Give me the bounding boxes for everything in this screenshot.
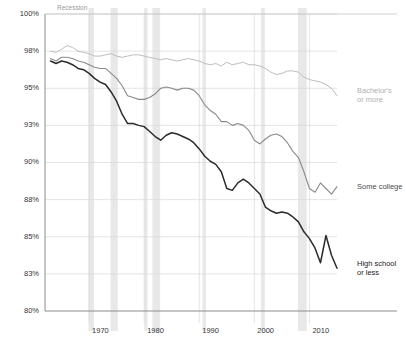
x-tick-label: 1970 <box>92 326 109 335</box>
series-label-line: or less <box>357 268 379 277</box>
x-tick-label: 1990 <box>202 326 219 335</box>
y-tick-label: 83% <box>24 269 39 278</box>
y-tick-label: 85% <box>24 232 39 241</box>
y-tick-label: 95% <box>24 83 39 92</box>
series-label-some-college: Some college <box>357 182 402 191</box>
series-label-bachelor-s-or-more: Bachelor'sor more <box>357 86 392 104</box>
recession-label: Recession <box>57 4 88 11</box>
recession-band <box>152 8 160 331</box>
series-label-high-school-or-less: High schoolor less <box>357 259 397 277</box>
y-tick-label: 93% <box>24 120 39 129</box>
y-tick-label: 90% <box>24 157 39 166</box>
series-label-line: Bachelor's <box>357 86 392 95</box>
series-labels: Bachelor'sor moreSome collegeHigh school… <box>357 86 402 277</box>
annotations: Recession <box>57 4 88 11</box>
recession-band <box>261 8 265 331</box>
series-label-line: or more <box>357 95 383 104</box>
series-label-line: High school <box>357 259 397 268</box>
recession-band <box>298 8 307 331</box>
x-gridlines <box>89 14 309 323</box>
x-tick-labels: 19701980199020002010 <box>92 326 329 335</box>
education-employment-line-chart: 100%98%95%93%90%88%85%83%80%197019801990… <box>0 0 406 346</box>
recession-bands <box>89 8 307 331</box>
series-label-line: Some college <box>357 182 402 191</box>
x-tick-label: 2010 <box>312 326 329 335</box>
chart-canvas: 100%98%95%93%90%88%85%83%80%197019801990… <box>0 0 406 346</box>
y-tick-labels: 100%98%95%93%90%88%85%83%80% <box>20 9 40 315</box>
recession-band <box>203 8 206 331</box>
y-tick-label: 100% <box>20 9 40 18</box>
x-tick-label: 2000 <box>257 326 274 335</box>
y-tick-label: 98% <box>24 46 39 55</box>
x-tick-label: 1980 <box>147 326 164 335</box>
y-tick-label: 80% <box>24 306 39 315</box>
y-tick-label: 88% <box>24 195 39 204</box>
